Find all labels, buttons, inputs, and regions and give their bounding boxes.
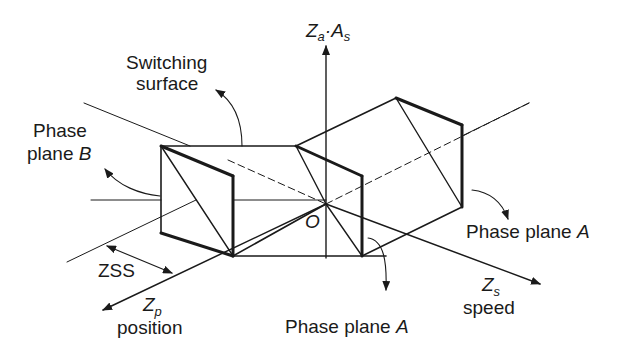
box-left-top-thick	[161, 146, 233, 176]
origin-label: O	[305, 211, 320, 232]
mid-top-thick	[296, 146, 362, 176]
hidden-dashed-line	[228, 160, 326, 204]
position-axis-symbol: Zp	[142, 294, 162, 319]
phase-space-diagram: Za·As Switching surface Phase plane B O …	[0, 0, 632, 351]
switching-surface-arrow	[216, 90, 242, 146]
speed-axis-symbol: Zs	[481, 274, 501, 299]
right-top-thick	[396, 98, 462, 125]
speed-axis	[326, 204, 540, 284]
phase-plane-b-arrow	[105, 169, 160, 196]
speed-axis-caption: speed	[463, 297, 515, 318]
surface-line-upper-left	[84, 103, 190, 146]
phase-plane-a-right-arrow	[472, 190, 508, 219]
mid-diag-2	[326, 204, 362, 256]
vertical-axis-label: Za·As	[305, 20, 351, 44]
surface-line-right-solid	[462, 103, 529, 136]
switching-surface-label-2: surface	[136, 73, 198, 94]
position-axis-caption: position	[117, 317, 183, 338]
zss-offset-line	[67, 200, 196, 262]
phase-plane-b-label-1: Phase	[33, 120, 87, 141]
phase-plane-a-bottom-label: Phase plane A	[285, 316, 409, 337]
right-top-edge	[296, 98, 396, 146]
position-axis	[103, 204, 326, 310]
phase-plane-a-right-label: Phase plane A	[466, 221, 590, 242]
mid-diag-1	[296, 146, 326, 204]
box-left-bottom-thick	[161, 233, 233, 256]
right-diagonal	[396, 98, 462, 207]
phase-plane-b-label-2: plane B	[27, 143, 92, 164]
zss-label: ZSS	[98, 260, 135, 281]
switching-surface-label-1: Switching	[126, 52, 207, 73]
